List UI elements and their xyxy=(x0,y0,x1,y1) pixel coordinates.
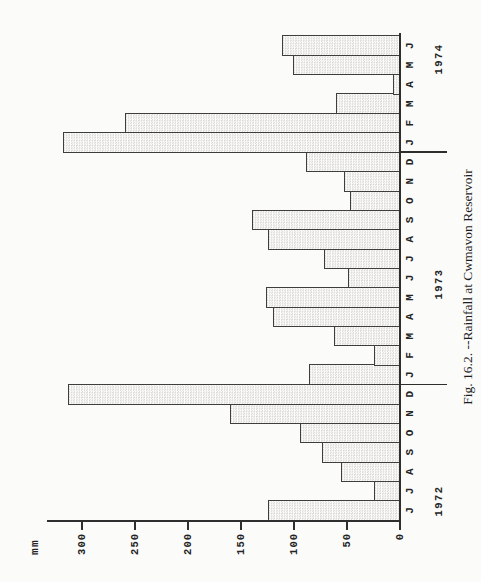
rainfall-bar xyxy=(293,55,401,76)
rainfall-bar xyxy=(344,171,402,192)
rainfall-bar xyxy=(266,287,401,308)
rainfall-bar xyxy=(350,190,401,211)
value-axis-tick xyxy=(293,521,295,530)
value-axis-tick xyxy=(240,521,242,530)
month-label: J xyxy=(404,249,417,268)
figure-caption: Fig. 16.2. --Rainfall at Cwmavon Reservo… xyxy=(460,92,476,482)
month-label: M xyxy=(404,288,417,307)
month-label: N xyxy=(404,404,417,423)
month-label: J xyxy=(404,481,417,500)
rainfall-bar xyxy=(306,151,402,172)
rainfall-bar xyxy=(374,345,402,366)
year-label: 1973 xyxy=(433,254,445,314)
rainfall-bar xyxy=(336,93,401,114)
value-tick-label: 0 xyxy=(394,533,407,565)
value-tick-label: 250 xyxy=(129,533,142,565)
value-tick-label: 300 xyxy=(76,533,89,565)
rainfall-bar xyxy=(282,35,401,56)
rainfall-bar xyxy=(63,132,401,153)
month-label: M xyxy=(404,55,417,74)
month-label: O xyxy=(404,423,417,442)
rainfall-bar xyxy=(348,268,401,289)
rainfall-bar xyxy=(273,306,402,327)
rainfall-bar xyxy=(125,113,401,134)
month-label: D xyxy=(404,152,417,171)
rainfall-bar xyxy=(230,403,401,424)
value-axis-tick xyxy=(399,521,401,530)
value-axis-line xyxy=(47,520,401,522)
month-label: S xyxy=(404,443,417,462)
month-axis-line xyxy=(399,33,401,522)
value-axis-tick xyxy=(346,521,348,530)
rainfall-bar xyxy=(341,461,402,482)
rotated-figure-sheet: mm JJASONDJFMAMJJASONDJFMAMJ050100150200… xyxy=(0,0,481,582)
rainfall-bar xyxy=(334,326,401,347)
month-label: J xyxy=(404,501,417,520)
month-label: J xyxy=(404,365,417,384)
y-axis-unit-label: mm xyxy=(29,539,41,555)
rainfall-bar xyxy=(309,364,402,385)
month-label: J xyxy=(404,36,417,55)
rainfall-bar xyxy=(324,248,402,269)
month-label: M xyxy=(404,326,417,345)
year-label: 1972 xyxy=(433,471,445,531)
month-label: A xyxy=(404,462,417,481)
month-label: O xyxy=(404,191,417,210)
value-tick-label: 200 xyxy=(182,533,195,565)
value-tick-label: 100 xyxy=(288,533,301,565)
month-label: A xyxy=(404,230,417,249)
month-label: J xyxy=(404,133,417,152)
rainfall-bar xyxy=(252,210,402,231)
rainfall-bar xyxy=(268,500,402,521)
year-separator-tick xyxy=(400,384,447,386)
month-label: F xyxy=(404,113,417,132)
month-label: M xyxy=(404,94,417,113)
month-label: A xyxy=(404,75,417,94)
rainfall-bar xyxy=(374,481,402,502)
month-label: S xyxy=(404,210,417,229)
value-tick-label: 50 xyxy=(341,533,354,565)
rainfall-bar xyxy=(268,229,402,250)
month-label: D xyxy=(404,384,417,403)
month-label: J xyxy=(404,268,417,287)
rainfall-bar xyxy=(322,442,402,463)
value-axis-tick xyxy=(187,521,189,530)
rainfall-bar xyxy=(68,384,401,405)
rainfall-bar xyxy=(300,423,401,444)
month-label: N xyxy=(404,172,417,191)
year-label: 1974 xyxy=(433,29,445,89)
value-axis-tick xyxy=(134,521,136,530)
month-label: F xyxy=(404,346,417,365)
value-tick-label: 150 xyxy=(235,533,248,565)
month-label: A xyxy=(404,307,417,326)
year-separator-tick xyxy=(400,151,447,153)
value-axis-tick xyxy=(81,521,83,530)
